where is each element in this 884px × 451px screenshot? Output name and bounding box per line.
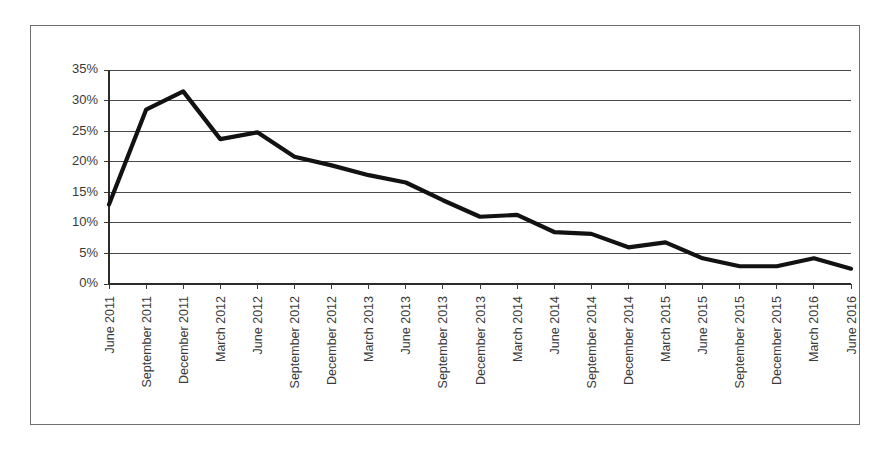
y-axis-tick-label: 0% [79, 275, 98, 290]
x-axis-tick-label: December 2013 [474, 296, 488, 385]
data-series-line [109, 91, 851, 268]
x-axis-tick-label: December 2014 [622, 296, 636, 385]
x-axis-tick-label: March 2016 [807, 296, 821, 362]
axes-group [109, 70, 851, 284]
y-axis-tick-label: 10% [72, 214, 98, 229]
x-axis-tick-label: December 2015 [770, 296, 784, 385]
x-axis-tick-label: June 2015 [696, 296, 710, 354]
y-axis-tick-label: 15% [72, 184, 98, 199]
x-axis-tick-label: September 2015 [733, 296, 747, 388]
x-axis-tick-label: March 2015 [659, 296, 673, 362]
x-axis-tick-label: June 2016 [845, 296, 859, 354]
line-chart: 0%5%10%15%20%25%30%35% June 2011Septembe… [31, 26, 859, 424]
y-axis-tick-label: 20% [72, 153, 98, 168]
y-axis-tick-label: 30% [72, 92, 98, 107]
x-axis-tick-label: September 2014 [585, 296, 599, 388]
chart-page: 0%5%10%15%20%25%30%35% June 2011Septembe… [0, 0, 884, 451]
gridlines-group [104, 70, 851, 284]
y-axis-tick-labels: 0%5%10%15%20%25%30%35% [72, 61, 98, 290]
x-axis-tick-label: September 2012 [288, 296, 302, 388]
x-axis-tick-label: December 2011 [177, 296, 191, 384]
x-axis-tick-label: March 2012 [214, 296, 228, 362]
x-axis-tick-label: June 2012 [251, 296, 265, 354]
x-axis-tick-label: March 2014 [511, 296, 525, 362]
x-axis-tick-labels: June 2011September 2011December 2011Marc… [103, 296, 859, 388]
x-axis-tick-label: December 2012 [325, 296, 339, 385]
y-axis-tick-label: 35% [72, 61, 98, 76]
y-axis-tick-label: 5% [79, 245, 98, 260]
x-axis-tick-label: June 2013 [399, 296, 413, 354]
x-axis-tick-label: September 2011 [140, 296, 154, 388]
x-axis-tick-label: March 2013 [362, 296, 376, 362]
x-axis-tick-label: September 2013 [436, 296, 450, 388]
x-axis-tickmarks [109, 284, 851, 289]
chart-frame: 0%5%10%15%20%25%30%35% June 2011Septembe… [30, 25, 860, 425]
x-axis-tick-label: June 2014 [548, 296, 562, 354]
x-axis-tick-label: June 2011 [103, 296, 117, 354]
y-axis-tick-label: 25% [72, 123, 98, 138]
